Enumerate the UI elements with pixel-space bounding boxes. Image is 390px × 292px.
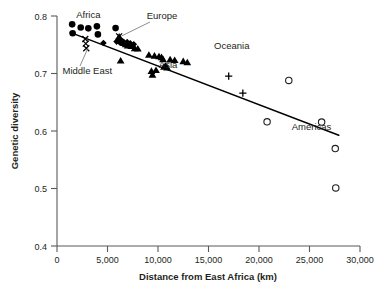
figure-container: 0.8 0.7 0.6 0.5 0.4 0 5,000 10,000 15,00… bbox=[0, 0, 390, 292]
label-europe: Europe bbox=[147, 10, 178, 21]
label-oceania: Oceania bbox=[214, 40, 250, 51]
label-americas: Americas bbox=[292, 121, 332, 132]
x-axis-ticks: 0 5,000 10,000 15,000 20,000 25,000 30,0… bbox=[54, 246, 373, 265]
x-ticklabel-20000: 20,000 bbox=[245, 255, 273, 265]
point-open-circle bbox=[264, 119, 270, 125]
label-asia: Asia bbox=[159, 59, 178, 70]
group-labels: AfricaMiddle EastEuropeAsiaOceaniaAmeric… bbox=[62, 9, 331, 132]
y-ticklabel-0.8: 0.8 bbox=[34, 12, 47, 22]
label-africa: Africa bbox=[76, 9, 101, 20]
series-americas bbox=[264, 77, 339, 191]
x-ticklabel-5000: 5,000 bbox=[96, 255, 119, 265]
point-filled-circle bbox=[69, 21, 76, 28]
point-filled-circle bbox=[112, 25, 119, 32]
y-axis-title: Genetic diversity bbox=[9, 92, 20, 169]
leader-europe bbox=[122, 22, 151, 36]
point-plus bbox=[225, 72, 232, 79]
point-triangle bbox=[117, 57, 125, 64]
point-plus bbox=[239, 89, 246, 96]
data-markers-group bbox=[69, 21, 339, 191]
point-triangle bbox=[145, 51, 153, 58]
scatter-plot: 0.8 0.7 0.6 0.5 0.4 0 5,000 10,000 15,00… bbox=[0, 0, 390, 292]
y-ticklabel-0.4: 0.4 bbox=[34, 242, 47, 252]
point-filled-circle bbox=[94, 23, 101, 30]
point-open-circle bbox=[286, 77, 292, 83]
x-ticklabel-0: 0 bbox=[54, 255, 59, 265]
x-ticklabel-25000: 25,000 bbox=[296, 255, 324, 265]
point-filled-circle bbox=[85, 25, 92, 32]
y-ticklabel-0.5: 0.5 bbox=[34, 184, 47, 194]
point-filled-circle bbox=[95, 31, 102, 38]
point-open-circle bbox=[333, 185, 339, 191]
label-middle-east: Middle East bbox=[62, 65, 112, 76]
y-ticklabel-0.7: 0.7 bbox=[34, 69, 47, 79]
x-axis-title: Distance from East Africa (km) bbox=[139, 271, 277, 282]
point-open-circle bbox=[332, 145, 338, 151]
y-ticklabel-0.6: 0.6 bbox=[34, 127, 47, 137]
x-ticklabel-30000: 30,000 bbox=[346, 255, 374, 265]
y-axis-ticks: 0.8 0.7 0.6 0.5 0.4 bbox=[34, 12, 57, 252]
x-ticklabel-10000: 10,000 bbox=[144, 255, 172, 265]
point-filled-circle bbox=[77, 24, 84, 31]
point-x-mark bbox=[83, 45, 89, 51]
x-ticklabel-15000: 15,000 bbox=[195, 255, 223, 265]
